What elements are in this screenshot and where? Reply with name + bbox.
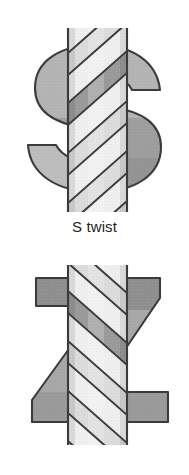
s-twist-panel: S twist — [0, 0, 189, 240]
rope-column-s-twist — [60, 0, 135, 240]
s-twist-illustration — [0, 0, 189, 240]
rope-column-z-twist — [60, 240, 135, 475]
s-twist-caption: S twist — [0, 219, 189, 234]
z-twist-illustration — [0, 240, 189, 475]
z-twist-panel: Z twist — [0, 240, 189, 475]
twist-diagram-figure: S twist — [0, 0, 189, 475]
